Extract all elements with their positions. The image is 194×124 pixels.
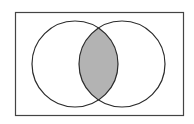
venn-diagram (0, 0, 194, 124)
